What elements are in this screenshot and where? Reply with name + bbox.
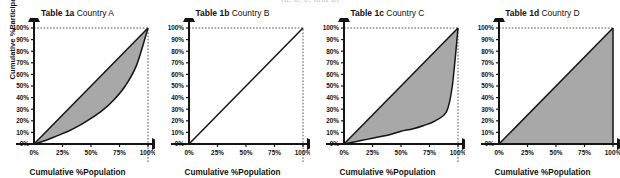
- x-axis-tick-label: 25%: [56, 149, 69, 156]
- y-axis-tick-label: 0%: [175, 140, 185, 147]
- plot-area: 0%10%20%30%40%50%60%70%80%90%100%0%25%50…: [310, 18, 465, 178]
- x-axis-tick-label: 0%: [184, 149, 194, 156]
- y-axis-title: Cumulative %Participation: [8, 0, 17, 88]
- panel-title-table-label: Table 1a: [41, 8, 74, 18]
- y-axis-tick-label: 10%: [171, 129, 184, 136]
- y-axis-tick-label: 70%: [481, 59, 494, 66]
- y-axis-tick-label: 70%: [16, 59, 29, 66]
- y-axis-tick-label: 100%: [323, 24, 340, 31]
- y-axis-tick-label: 70%: [171, 59, 184, 66]
- panel-title-country-label: Country C: [386, 8, 424, 18]
- x-axis-tick-label: 50%: [240, 149, 253, 156]
- x-axis-tick-label: 0%: [29, 149, 39, 156]
- y-axis-tick-label: 90%: [481, 36, 494, 43]
- x-axis-title: Cumulative %Population: [465, 168, 620, 177]
- panel-title-country-label: Country A: [77, 8, 114, 18]
- y-axis-tick-label: 10%: [16, 129, 29, 136]
- y-axis-tick-label: 90%: [171, 36, 184, 43]
- y-axis-tick-label: 20%: [16, 117, 29, 124]
- plot-area: 0%10%20%30%40%50%60%70%80%90%100%0%25%50…: [0, 18, 155, 178]
- x-axis-tick-label: 25%: [366, 149, 379, 156]
- x-axis-tick-label: 50%: [550, 149, 563, 156]
- x-axis-tick-label: 100%: [605, 149, 620, 156]
- x-axis-tick-label: 50%: [395, 149, 408, 156]
- y-axis-tick-label: 0%: [485, 140, 495, 147]
- y-axis-tick-label: 50%: [481, 82, 494, 89]
- x-axis-tick-label: 100%: [140, 149, 155, 156]
- plot-area: 0%10%20%30%40%50%60%70%80%90%100%0%25%50…: [155, 18, 310, 178]
- y-axis-tick-label: 30%: [171, 106, 184, 113]
- x-axis-tick-label: 50%: [85, 149, 98, 156]
- panel-title: Table 1c Country C: [310, 8, 465, 18]
- y-axis-tick-label: 40%: [16, 94, 29, 101]
- y-axis-tick-label: 90%: [16, 36, 29, 43]
- y-axis-tick-label: 80%: [326, 48, 339, 55]
- panel-title-table-label: Table 1d: [505, 8, 539, 18]
- y-axis-tick-label: 30%: [481, 106, 494, 113]
- y-axis-tick-label: 30%: [326, 106, 339, 113]
- chart-panel-b: Table 1b Country B0%10%20%30%40%50%60%70…: [155, 0, 310, 178]
- panel-title: Table 1a Country A: [0, 8, 155, 18]
- y-axis-tick-label: 40%: [481, 94, 494, 101]
- y-axis-tick-label: 0%: [330, 140, 340, 147]
- chart-panel-d: Table 1d Country D0%10%20%30%40%50%60%70…: [465, 0, 620, 178]
- x-axis-title: Cumulative %Population: [155, 168, 310, 177]
- x-axis-tick-label: 75%: [113, 149, 126, 156]
- y-axis-tick-label: 40%: [171, 94, 184, 101]
- chart-panel-a: Table 1a Country A0%10%20%30%40%50%60%70…: [0, 0, 155, 178]
- y-axis-tick-label: 100%: [168, 24, 185, 31]
- chart-panel-c: Table 1c Country C0%10%20%30%40%50%60%70…: [310, 0, 465, 178]
- x-axis-tick-label: 75%: [423, 149, 436, 156]
- y-axis-tick-label: 80%: [16, 48, 29, 55]
- y-axis-tick-label: 90%: [326, 36, 339, 43]
- y-axis-tick-label: 20%: [326, 117, 339, 124]
- plot-area: 0%10%20%30%40%50%60%70%80%90%100%0%25%50…: [465, 18, 620, 178]
- x-axis-tick-label: 0%: [494, 149, 504, 156]
- y-axis-tick-label: 60%: [16, 71, 29, 78]
- panel-title: Table 1d Country D: [465, 8, 620, 18]
- x-axis-title: Cumulative %Population: [310, 168, 465, 177]
- x-axis-tick-label: 100%: [295, 149, 310, 156]
- y-axis-tick-label: 60%: [481, 71, 494, 78]
- panel-title-country-label: Country D: [541, 8, 579, 18]
- panel-title-table-label: Table 1b: [195, 8, 229, 18]
- y-axis-tick-label: 60%: [326, 71, 339, 78]
- y-axis-tick-label: 50%: [16, 82, 29, 89]
- y-axis-tick-label: 50%: [171, 82, 184, 89]
- lorenz-curve-panel-row: Table 1a Country A0%10%20%30%40%50%60%70…: [0, 0, 620, 178]
- y-axis-tick-label: 80%: [481, 48, 494, 55]
- panel-title-table-label: Table 1c: [350, 8, 383, 18]
- y-axis-tick-label: 80%: [171, 48, 184, 55]
- y-axis-tick-label: 20%: [481, 117, 494, 124]
- line-of-equality: [189, 28, 303, 144]
- x-axis-tick-label: 75%: [268, 149, 281, 156]
- y-axis-tick-label: 60%: [171, 71, 184, 78]
- panel-title-country-label: Country B: [232, 8, 270, 18]
- x-axis-tick-label: 25%: [211, 149, 224, 156]
- line-of-equality: [34, 28, 148, 144]
- y-axis-tick-label: 10%: [326, 129, 339, 136]
- x-axis-title: Cumulative %Population: [0, 168, 155, 177]
- y-axis-tick-label: 10%: [481, 129, 494, 136]
- y-axis-tick-label: 30%: [16, 106, 29, 113]
- y-axis-tick-label: 50%: [326, 82, 339, 89]
- y-axis-tick-label: 0%: [20, 140, 30, 147]
- y-axis-tick-label: 70%: [326, 59, 339, 66]
- x-axis-tick-label: 0%: [339, 149, 349, 156]
- x-axis-tick-label: 25%: [521, 149, 534, 156]
- y-axis-tick-label: 20%: [171, 117, 184, 124]
- y-axis-tick-label: 40%: [326, 94, 339, 101]
- y-axis-tick-label: 100%: [478, 24, 495, 31]
- x-axis-tick-label: 100%: [450, 149, 465, 156]
- panel-title: Table 1b Country B: [155, 8, 310, 18]
- x-axis-tick-label: 75%: [578, 149, 591, 156]
